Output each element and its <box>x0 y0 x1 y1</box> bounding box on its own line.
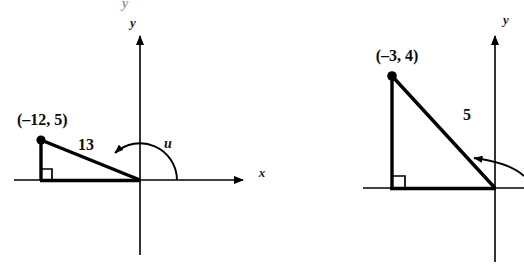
trigonometry-figure: y y x (–12, 5) 13 u <box>0 0 524 275</box>
left-diagram: y x (–12, 5) 13 u <box>14 15 266 255</box>
left-x-axis-label: x <box>258 165 266 180</box>
right-hypotenuse-length-label: 5 <box>463 106 471 123</box>
left-terminal-point-dot <box>36 135 45 144</box>
right-terminal-point-dot <box>387 71 397 81</box>
left-y-axis-label: y <box>128 15 136 30</box>
left-hypotenuse-length-label: 13 <box>78 136 94 153</box>
left-point-label: (–12, 5) <box>17 111 68 129</box>
right-right-angle-marker <box>392 176 405 188</box>
right-point-label: (–3, 4) <box>376 47 419 65</box>
left-angle-label: u <box>164 136 172 151</box>
page-bleed-glyph: y <box>120 0 129 11</box>
right-y-axis-label: y <box>501 12 509 27</box>
right-triangle-hypotenuse <box>392 76 495 188</box>
figure-canvas: y y x (–12, 5) 13 u <box>0 0 524 275</box>
right-diagram: y (–3, 4) 5 <box>363 12 524 262</box>
